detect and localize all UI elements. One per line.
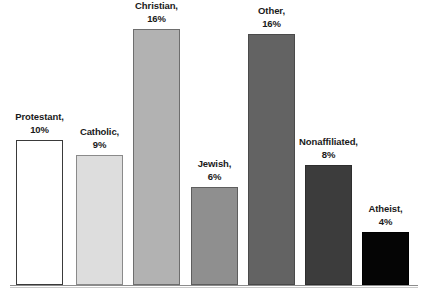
x-axis-shadow-line — [10, 287, 418, 288]
bar-label-christian: Christian,16% — [135, 0, 178, 25]
bar-other[interactable] — [248, 34, 295, 285]
x-axis-line — [10, 285, 418, 286]
bar-group-nonaffiliated[interactable]: Nonaffiliated,8% — [305, 165, 352, 285]
bar-label-catholic: Catholic,9% — [80, 126, 119, 151]
bar-label-name: Nonaffiliated, — [299, 136, 358, 149]
bar-group-catholic[interactable]: Catholic,9% — [76, 155, 123, 285]
bar-label-name: Other, — [258, 5, 285, 18]
bar-label-value: 4% — [368, 216, 402, 229]
bar-group-christian[interactable]: Christian,16% — [133, 29, 180, 285]
bar-label-value: 9% — [80, 139, 119, 152]
bar-label-name: Christian, — [135, 0, 178, 13]
bar-label-protestant: Protestant,10% — [15, 111, 64, 136]
bar-label-value: 16% — [258, 18, 285, 31]
bar-label-atheist: Atheist,4% — [368, 203, 402, 228]
bar-nonaffiliated[interactable] — [305, 165, 352, 285]
bar-group-atheist[interactable]: Atheist,4% — [362, 232, 409, 285]
bar-chart: Protestant,10%Catholic,9%Christian,16%Je… — [0, 0, 425, 298]
bar-group-other[interactable]: Other,16% — [248, 34, 295, 285]
bar-label-value: 6% — [198, 171, 232, 184]
bar-group-jewish[interactable]: Jewish,6% — [191, 187, 238, 285]
bar-label-value: 8% — [299, 149, 358, 162]
bar-label-nonaffiliated: Nonaffiliated,8% — [299, 136, 358, 161]
bar-label-name: Protestant, — [15, 111, 64, 124]
bar-catholic[interactable] — [76, 155, 123, 285]
bar-label-value: 10% — [15, 124, 64, 137]
bar-label-other: Other,16% — [258, 5, 285, 30]
bar-label-name: Catholic, — [80, 126, 119, 139]
bar-label-value: 16% — [135, 13, 178, 26]
bar-atheist[interactable] — [362, 232, 409, 285]
bar-group-protestant[interactable]: Protestant,10% — [16, 140, 63, 285]
bar-label-jewish: Jewish,6% — [198, 158, 232, 183]
bar-christian[interactable] — [133, 29, 180, 285]
bar-label-name: Atheist, — [368, 203, 402, 216]
bar-protestant[interactable] — [16, 140, 63, 285]
bar-jewish[interactable] — [191, 187, 238, 285]
bar-label-name: Jewish, — [198, 158, 232, 171]
